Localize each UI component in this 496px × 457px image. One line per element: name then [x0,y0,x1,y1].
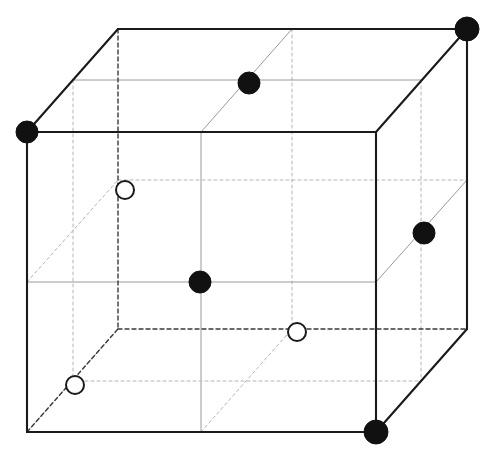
atom-body-center [189,271,211,293]
atom-open-lower-left [66,376,84,394]
atom-markers [16,17,479,444]
atom-corner-back-top-right [455,17,479,41]
unit-cell-figure [0,0,496,457]
atom-open-lower-right [288,323,306,341]
atom-open-upper-left [116,181,134,199]
atom-face-top [238,72,260,94]
atom-corner-front-bottom-right [364,420,388,444]
atom-face-right [413,222,435,244]
cube-diagram [0,0,496,457]
atom-corner-front-top-left [16,121,38,143]
